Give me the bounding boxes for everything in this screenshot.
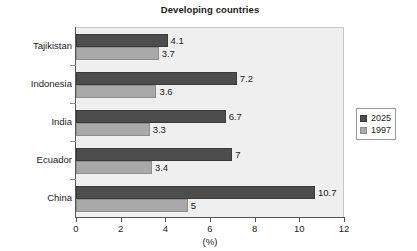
bar-value-label: 10.7 — [318, 186, 337, 199]
x-axis-tick — [255, 218, 256, 222]
bar-india-2025 — [76, 110, 226, 123]
bar-china-1997 — [76, 199, 188, 212]
x-axis-title: (%) — [76, 236, 344, 247]
x-axis-tick-label: 0 — [61, 223, 91, 234]
legend-label: 2025 — [371, 112, 391, 124]
y-axis-tick — [70, 65, 76, 66]
chart-title: Developing countries — [76, 4, 344, 15]
category-label-indonesia: Indonesia — [31, 78, 72, 90]
y-axis-tick — [70, 141, 76, 142]
x-axis-tick — [299, 218, 300, 222]
bar-value-label: 7 — [235, 148, 240, 161]
legend-item-2025[interactable]: 2025 — [360, 112, 391, 124]
legend-swatch-icon — [360, 115, 367, 122]
x-axis-tick — [210, 218, 211, 222]
y-axis-tick — [70, 103, 76, 104]
bar-value-label: 6.7 — [229, 110, 242, 123]
bar-india-1997 — [76, 123, 150, 136]
x-axis-tick-label: 6 — [195, 223, 225, 234]
bar-indonesia-1997 — [76, 85, 156, 98]
x-axis-tick — [165, 218, 166, 222]
x-axis-tick-label: 4 — [150, 223, 180, 234]
x-axis-tick — [344, 218, 345, 222]
y-axis-tick — [70, 179, 76, 180]
legend-label: 1997 — [371, 124, 391, 136]
category-label-tajikistan: Tajikistan — [33, 40, 72, 52]
bar-value-label: 7.2 — [240, 72, 253, 85]
bar-value-label: 3.3 — [153, 123, 166, 136]
bar-value-label: 4.1 — [171, 34, 184, 47]
bar-china-2025 — [76, 186, 315, 199]
x-axis-tick — [121, 218, 122, 222]
bars-container: 4.13.77.23.66.73.373.410.75 — [76, 28, 343, 217]
x-axis-tick-label: 10 — [284, 223, 314, 234]
bar-value-label: 5 — [191, 199, 196, 212]
chart-legend: 20251997 — [356, 108, 396, 140]
y-axis-line — [75, 27, 76, 218]
category-label-ecuador: Ecuador — [37, 154, 72, 166]
legend-swatch-icon — [360, 127, 367, 134]
bar-value-label: 3.4 — [155, 161, 168, 174]
bar-value-label: 3.7 — [162, 47, 175, 60]
bar-ecuador-2025 — [76, 148, 232, 161]
bar-chart: Developing countries 4.13.77.23.66.73.37… — [0, 0, 417, 251]
category-label-india: India — [51, 116, 72, 128]
x-axis-tick-label: 12 — [329, 223, 359, 234]
category-label-china: China — [47, 192, 72, 204]
bar-tajikistan-1997 — [76, 47, 159, 60]
bar-ecuador-1997 — [76, 161, 152, 174]
bar-indonesia-2025 — [76, 72, 237, 85]
x-axis-tick-label: 8 — [240, 223, 270, 234]
bar-tajikistan-2025 — [76, 34, 168, 47]
plot-area: 4.13.77.23.66.73.373.410.75 — [76, 27, 344, 217]
x-axis-tick — [76, 218, 77, 222]
bar-value-label: 3.6 — [159, 85, 172, 98]
legend-item-1997[interactable]: 1997 — [360, 124, 391, 136]
x-axis-tick-label: 2 — [106, 223, 136, 234]
